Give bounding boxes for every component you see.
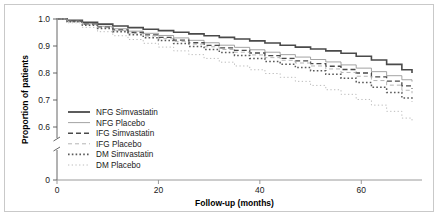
series-line-2	[57, 19, 412, 89]
x-axis-tick-label: 40	[255, 185, 265, 195]
legend-label: NFG Simvastatin	[96, 108, 158, 117]
x-axis-tick-label: 60	[357, 185, 367, 195]
y-axis-tick-label: 0.8	[38, 68, 50, 78]
legend-item: NFG Simvastatin	[68, 108, 158, 117]
legend-item: DM Placebo	[68, 161, 141, 170]
data-series-group	[57, 19, 412, 122]
series-line-5	[57, 19, 412, 122]
legend: NFG SimvastatinNFG PlaceboIFG Simvastati…	[68, 108, 158, 170]
figure-container: 0.60.70.80.91.000204060Follow-up (months…	[0, 0, 440, 220]
y-axis-tick-label: 0.7	[38, 95, 50, 105]
legend-item: IFG Simvastatin	[68, 129, 155, 138]
y-axis-tick-label: 1.0	[38, 14, 50, 24]
series-line-4	[57, 19, 412, 101]
legend-item: NFG Placebo	[68, 119, 146, 128]
legend-item: IFG Placebo	[68, 140, 142, 149]
legend-label: IFG Simvastatin	[96, 129, 155, 138]
survival-curve-chart: 0.60.70.80.91.000204060Follow-up (months…	[0, 0, 440, 220]
x-axis-tick-label: 20	[154, 185, 164, 195]
legend-item: DM Simvastatin	[68, 150, 154, 159]
legend-label: DM Simvastatin	[96, 150, 154, 159]
legend-label: NFG Placebo	[96, 119, 146, 128]
y-axis-title: Proportion of patients	[20, 55, 30, 144]
y-axis-tick-label: 0.6	[38, 122, 50, 132]
y-axis-tick-label: 0.9	[38, 41, 50, 51]
x-axis-title: Follow-up (months)	[195, 198, 274, 208]
legend-label: DM Placebo	[96, 161, 141, 170]
y-axis-zero-label: 0	[45, 175, 50, 185]
x-axis-tick-label: 0	[55, 185, 60, 195]
legend-label: IFG Placebo	[96, 140, 142, 149]
